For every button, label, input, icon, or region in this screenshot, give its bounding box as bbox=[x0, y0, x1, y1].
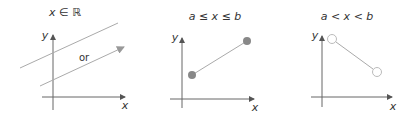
y-axis-label: y bbox=[311, 29, 319, 42]
infinite-line bbox=[20, 23, 118, 68]
x-axis-label: x bbox=[121, 99, 129, 112]
interval-segment bbox=[192, 41, 247, 75]
interval-segment bbox=[336, 42, 373, 69]
open-endpoint-a bbox=[328, 35, 337, 44]
or-text: or bbox=[79, 52, 90, 63]
y-axis-label: y bbox=[171, 31, 179, 44]
panel-closed-interval: a ≤ x ≤ b y x bbox=[170, 10, 259, 114]
panel-open-interval: a < x < b y x bbox=[311, 10, 397, 113]
panel-title: x ∈ ℝ bbox=[48, 6, 81, 19]
panel-title: a < x < b bbox=[321, 10, 374, 23]
closed-endpoint-b bbox=[243, 37, 251, 45]
x-axis-label: x bbox=[251, 101, 259, 114]
x-axis-label: x bbox=[389, 100, 397, 113]
panel-title: a ≤ x ≤ b bbox=[189, 10, 242, 23]
closed-endpoint-a bbox=[188, 71, 196, 79]
domain-diagram: x ∈ ℝ y x or a ≤ x ≤ b y x a < x < b y x bbox=[0, 0, 410, 117]
y-axis-label: y bbox=[41, 29, 49, 42]
open-endpoint-b bbox=[373, 68, 382, 77]
panel-all-reals: x ∈ ℝ y x or bbox=[20, 6, 129, 112]
